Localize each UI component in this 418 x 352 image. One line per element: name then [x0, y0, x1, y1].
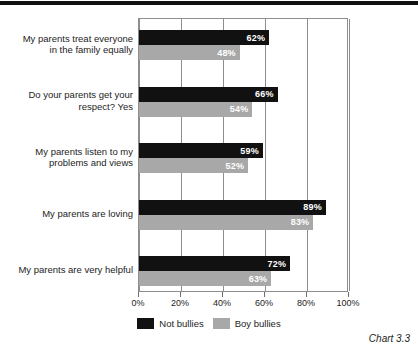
legend-item-boy-bullies: Boy bullies [213, 318, 281, 329]
bar-group: 62%48% [139, 30, 347, 67]
x-tick-label: 80% [297, 298, 315, 308]
bar-group: 89%83% [139, 200, 347, 237]
bar-not-bullies: 59% [139, 143, 263, 158]
legend-swatch [137, 318, 154, 329]
bar-value-label: 72% [268, 259, 287, 268]
x-tick-label: 0% [131, 298, 144, 308]
bar-not-bullies: 66% [139, 87, 278, 102]
bar-group: 66%54% [139, 87, 347, 124]
category-label: My parents are loving [0, 208, 133, 220]
x-tick-mark [222, 292, 223, 297]
legend-label: Not bullies [159, 318, 203, 329]
bar-group: 72%63% [139, 256, 347, 293]
bar-value-label: 62% [247, 33, 266, 42]
bar-value-label: 66% [255, 90, 274, 99]
x-tick-mark [306, 292, 307, 297]
category-label: My parents listen to myproblems and view… [0, 146, 133, 169]
bar-value-label: 59% [240, 146, 259, 155]
category-label: My parents treat everyonein the family e… [0, 33, 133, 56]
bar-group: 59%52% [139, 143, 347, 180]
bar-not-bullies: 72% [139, 256, 290, 271]
category-label-line: My parents are very helpful [0, 264, 133, 276]
category-label: My parents are very helpful [0, 264, 133, 276]
x-tick-mark [138, 292, 139, 297]
bar-boy-bullies: 52% [139, 158, 248, 173]
legend-swatch [213, 318, 230, 329]
bar-value-label: 83% [291, 218, 310, 227]
bar-value-label: 48% [217, 48, 236, 57]
legend-label: Boy bullies [235, 318, 281, 329]
category-label-line: My parents are loving [0, 208, 133, 220]
category-label-line: My parents listen to my [0, 146, 133, 158]
x-tick-mark [264, 292, 265, 297]
chart-caption: Chart 3.3 [369, 333, 410, 344]
bar-boy-bullies: 63% [139, 271, 271, 286]
x-tick-label: 20% [171, 298, 189, 308]
category-label: Do your parents get yourrespect? Yes [0, 89, 133, 112]
category-label-line: problems and views [0, 157, 133, 169]
bar-boy-bullies: 54% [139, 102, 252, 117]
bar-boy-bullies: 83% [139, 215, 313, 230]
bar-not-bullies: 89% [139, 200, 326, 215]
bar-boy-bullies: 48% [139, 45, 240, 60]
bar-not-bullies: 62% [139, 30, 269, 45]
x-tick-label: 60% [255, 298, 273, 308]
chart-legend: Not bulliesBoy bullies [0, 318, 418, 329]
bar-value-label: 89% [303, 203, 322, 212]
bar-value-label: 54% [230, 105, 249, 114]
x-tick-mark [348, 292, 349, 297]
x-tick-label: 40% [213, 298, 231, 308]
chart-figure: My parents treat everyonein the family e… [0, 0, 418, 352]
x-tick-label: 100% [336, 298, 359, 308]
x-axis: 0%20%40%60%80%100% [138, 292, 348, 310]
bar-value-label: 52% [226, 161, 245, 170]
category-axis-labels: My parents treat everyonein the family e… [0, 18, 133, 292]
category-label-line: Do your parents get your [0, 89, 133, 101]
plot-area: 62%48%66%54%59%52%89%83%72%63% [138, 18, 348, 292]
category-label-line: respect? Yes [0, 101, 133, 113]
gridline [349, 19, 350, 291]
legend-item-not-bullies: Not bullies [137, 318, 203, 329]
bar-value-label: 63% [249, 274, 268, 283]
x-tick-mark [180, 292, 181, 297]
category-label-line: in the family equally [0, 44, 133, 56]
category-label-line: My parents treat everyone [0, 33, 133, 45]
